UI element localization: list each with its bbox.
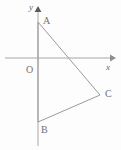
x-axis (5, 54, 116, 61)
point-label-a: A (43, 16, 50, 26)
y-axis-label: y (29, 3, 33, 12)
x-axis-label: x (106, 63, 110, 72)
x-axis-arrowhead (110, 54, 116, 61)
edge-c-b (38, 95, 100, 122)
y-axis-arrowhead (35, 6, 42, 12)
point-label-c: C (105, 89, 112, 99)
origin-label: O (26, 65, 33, 75)
point-label-b: B (41, 125, 48, 135)
geometry-figure: y x O A B C (0, 0, 121, 150)
triangle-abc (38, 22, 100, 122)
figure-canvas (0, 0, 121, 150)
